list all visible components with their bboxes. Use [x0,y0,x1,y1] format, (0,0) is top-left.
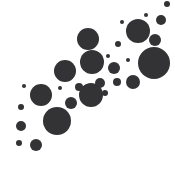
scatter-point [18,104,24,110]
scatter-plot-figure [0,0,175,170]
scatter-point [43,107,71,135]
scatter-point [115,41,121,47]
scatter-point [126,58,130,62]
scatter-point [16,121,26,131]
scatter-point [113,78,121,86]
scatter-point [126,19,150,43]
scatter-point [30,84,52,106]
scatter-point [144,13,148,17]
scatter-point [16,140,22,146]
scatter-point [58,86,62,90]
scatter-point [108,62,120,74]
scatter-point [120,20,124,24]
scatter-point [22,84,26,88]
scatter-point [30,139,42,151]
scatter-point [149,34,161,46]
scatter-point [80,50,104,74]
scatter-point [65,97,77,109]
scatter-point [156,15,166,25]
scatter-point [106,54,110,58]
scatter-point [77,28,99,50]
scatter-canvas [0,0,175,170]
scatter-point [54,60,76,82]
scatter-point [102,90,108,96]
scatter-point [95,78,105,88]
scatter-point [75,83,83,91]
scatter-point [126,75,140,89]
scatter-point [138,47,170,79]
scatter-point [164,1,170,7]
